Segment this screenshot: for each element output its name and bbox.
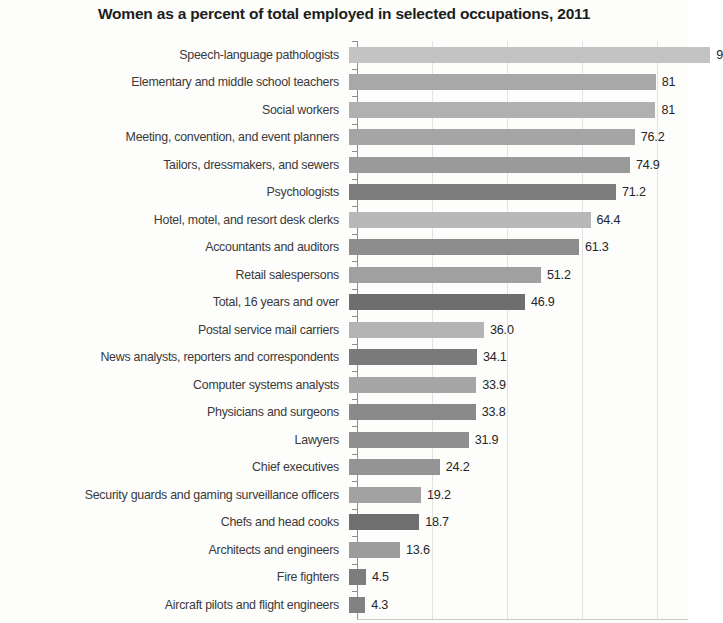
bar-value-label: 34.1 xyxy=(483,350,507,364)
category-label: Chief executives xyxy=(0,460,348,474)
bar-row: Tailors, dressmakers, and sewers74.9 xyxy=(0,151,688,179)
bar-value-label: 18.7 xyxy=(425,515,449,529)
category-label: Elementary and middle school teachers xyxy=(0,75,348,89)
bar-container: 36.0 xyxy=(348,316,688,344)
bar-value-label: 4.3 xyxy=(371,598,388,612)
bar xyxy=(349,322,484,338)
bar xyxy=(349,239,579,255)
bar-value-label: 13.6 xyxy=(406,543,430,557)
category-label: Tailors, dressmakers, and sewers xyxy=(0,158,348,172)
bar xyxy=(349,212,591,228)
bar-row: Physicians and surgeons33.8 xyxy=(0,399,688,427)
bar-value-label: 31.9 xyxy=(475,433,499,447)
bar-container: 81 xyxy=(348,69,688,97)
bar-container: 4.3 xyxy=(348,591,688,619)
bar xyxy=(349,267,541,283)
bar xyxy=(349,294,525,310)
bar-value-label: 81 xyxy=(662,75,676,89)
bar-container: 34.1 xyxy=(348,344,688,372)
bar-row: Speech-language pathologists9 xyxy=(0,41,688,69)
bar xyxy=(349,349,477,365)
bar-row: Postal service mail carriers36.0 xyxy=(0,316,688,344)
bar-container: 33.8 xyxy=(348,399,688,427)
bar-value-label: 33.8 xyxy=(482,405,506,419)
category-label: News analysts, reporters and corresponde… xyxy=(0,350,348,364)
bar-row: Retail salespersons51.2 xyxy=(0,261,688,289)
bar-container: 18.7 xyxy=(348,509,688,537)
bar xyxy=(349,74,656,90)
bar-value-label: 24.2 xyxy=(446,460,470,474)
category-label: Total, 16 years and over xyxy=(0,295,348,309)
bar-value-label: 33.9 xyxy=(482,378,506,392)
bar-container: 74.9 xyxy=(348,151,688,179)
bar-container: 24.2 xyxy=(348,454,688,482)
bar-value-label: 46.9 xyxy=(531,295,555,309)
bar-row: Lawyers31.9 xyxy=(0,426,688,454)
bar xyxy=(349,569,366,585)
bar-row: Chefs and head cooks18.7 xyxy=(0,509,688,537)
category-label: Chefs and head cooks xyxy=(0,515,348,529)
bar xyxy=(349,597,365,613)
category-label: Retail salespersons xyxy=(0,268,348,282)
bar-value-label: 4.5 xyxy=(372,570,389,584)
chart-title: Women as a percent of total employed in … xyxy=(0,5,688,23)
category-label: Accountants and auditors xyxy=(0,240,348,254)
bar-row: Security guards and gaming surveillance … xyxy=(0,481,688,509)
plot-area: Speech-language pathologists9Elementary … xyxy=(0,41,688,623)
bar-row: Fire fighters4.5 xyxy=(0,564,688,592)
bar-container: 71.2 xyxy=(348,179,688,207)
bar-container: 76.2 xyxy=(348,124,688,152)
category-label: Postal service mail carriers xyxy=(0,323,348,337)
bar-container: 46.9 xyxy=(348,289,688,317)
bar-row: News analysts, reporters and corresponde… xyxy=(0,344,688,372)
bar-row: Psychologists71.2 xyxy=(0,179,688,207)
bar xyxy=(349,184,616,200)
bar-value-label: 36.0 xyxy=(490,323,514,337)
bar-container: 9 xyxy=(348,41,723,69)
bar-container: 4.5 xyxy=(348,564,688,592)
x-axis-line xyxy=(357,619,688,620)
bar xyxy=(349,102,655,118)
bar xyxy=(349,377,476,393)
category-label: Architects and engineers xyxy=(0,543,348,557)
category-label: Meeting, convention, and event planners xyxy=(0,130,348,144)
category-label: Fire fighters xyxy=(0,570,348,584)
bar-value-label: 51.2 xyxy=(547,268,571,282)
bar-container: 64.4 xyxy=(348,206,688,234)
bar-row: Elementary and middle school teachers81 xyxy=(0,69,688,97)
category-label: Lawyers xyxy=(0,433,348,447)
bar xyxy=(349,487,421,503)
bar-container: 61.3 xyxy=(348,234,688,262)
bar-row: Computer systems analysts33.9 xyxy=(0,371,688,399)
bar-value-label: 64.4 xyxy=(597,213,621,227)
bar xyxy=(349,157,630,173)
bar-row: Meeting, convention, and event planners7… xyxy=(0,124,688,152)
bar-value-label: 71.2 xyxy=(622,185,646,199)
bar-container: 19.2 xyxy=(348,481,688,509)
bar xyxy=(349,47,710,63)
bar-container: 13.6 xyxy=(348,536,688,564)
bar-container: 33.9 xyxy=(348,371,688,399)
category-label: Computer systems analysts xyxy=(0,378,348,392)
bar-value-label: 19.2 xyxy=(427,488,451,502)
category-label: Security guards and gaming surveillance … xyxy=(0,488,348,502)
bar xyxy=(349,432,469,448)
bar xyxy=(349,459,440,475)
category-label: Social workers xyxy=(0,103,348,117)
category-label: Psychologists xyxy=(0,185,348,199)
bar xyxy=(349,514,419,530)
bar-value-label: 9 xyxy=(716,48,723,62)
bar-container: 31.9 xyxy=(348,426,688,454)
bar-value-label: 61.3 xyxy=(585,240,609,254)
bar-row: Chief executives24.2 xyxy=(0,454,688,482)
category-label: Speech-language pathologists xyxy=(0,48,348,62)
bar-container: 51.2 xyxy=(348,261,688,289)
bar-row: Hotel, motel, and resort desk clerks64.4 xyxy=(0,206,688,234)
bar-row: Accountants and auditors61.3 xyxy=(0,234,688,262)
bar-row: Architects and engineers13.6 xyxy=(0,536,688,564)
bar-rows: Speech-language pathologists9Elementary … xyxy=(0,41,688,619)
category-label: Aircraft pilots and flight engineers xyxy=(0,598,348,612)
bar xyxy=(349,129,635,145)
bar xyxy=(349,404,476,420)
